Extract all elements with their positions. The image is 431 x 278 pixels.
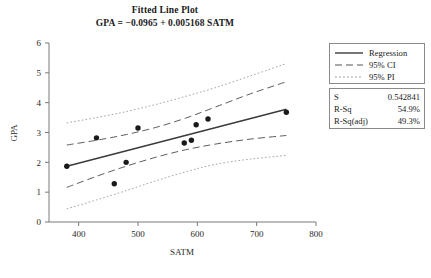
legend-swatch-dotted-icon — [334, 72, 364, 82]
y-tick-label: 2 — [37, 158, 42, 168]
x-tick-label: 600 — [191, 229, 205, 239]
stats-row-s: S 0.542841 — [334, 91, 420, 103]
y-tick-label: 6 — [37, 38, 42, 48]
axis-frame — [49, 43, 316, 222]
x-tick-label: 800 — [309, 229, 323, 239]
x-tick-label: 700 — [250, 229, 264, 239]
statistics-box: S 0.542841 R-Sq 54.9% R-Sq(adj) 49.3% — [329, 88, 425, 129]
x-axis-title: SATM — [170, 247, 194, 257]
legend-item-ci: 95% CI — [334, 59, 420, 71]
stats-key-rsqadj: R-Sq(adj) — [334, 116, 368, 126]
data-point — [205, 116, 210, 121]
legend-label-pi: 95% PI — [369, 72, 395, 82]
data-point — [182, 140, 187, 145]
legend-item-pi: 95% PI — [334, 71, 420, 83]
stats-value-rsq: 54.9% — [398, 104, 420, 114]
x-axis-tick-labels: 400500600700800 — [72, 229, 323, 239]
prediction-interval-upper-line — [67, 64, 287, 123]
y-axis-title: GPA — [9, 124, 19, 142]
plot-canvas: 0123456 400500600700800 SATM GPA — [0, 0, 431, 278]
y-tick-label: 4 — [37, 98, 42, 108]
stats-key-s: S — [334, 92, 339, 102]
data-point — [94, 135, 99, 140]
stats-row-rsq: R-Sq 54.9% — [334, 103, 420, 115]
data-point — [284, 110, 289, 115]
x-axis-ticks — [79, 222, 316, 226]
stats-value-s: 0.542841 — [388, 92, 420, 102]
data-point — [112, 181, 117, 186]
legend-box: Regression 95% CI 95% PI — [329, 43, 425, 84]
data-point — [135, 125, 140, 130]
stats-key-rsq: R-Sq — [334, 104, 352, 114]
y-tick-label: 3 — [37, 128, 42, 138]
y-tick-label: 1 — [37, 187, 42, 197]
legend-label-regression: Regression — [369, 48, 407, 58]
legend-item-regression: Regression — [334, 47, 420, 59]
stats-value-rsqadj: 49.3% — [398, 116, 420, 126]
y-tick-label: 5 — [37, 68, 42, 78]
legend-label-ci: 95% CI — [369, 60, 396, 70]
stats-row-rsqadj: R-Sq(adj) 49.3% — [334, 115, 420, 127]
x-tick-label: 500 — [131, 229, 145, 239]
fitted-line-plot-figure: Fitted Line Plot GPA = −0.0965 + 0.00516… — [0, 0, 431, 278]
data-point — [64, 164, 69, 169]
regression-line — [67, 109, 287, 166]
data-point — [123, 160, 128, 165]
legend-swatch-solid-icon — [334, 48, 364, 58]
confidence-interval-lower-line — [67, 135, 287, 187]
data-point — [193, 122, 198, 127]
legend-swatch-dashed-icon — [334, 60, 364, 70]
y-tick-label: 0 — [37, 217, 42, 227]
y-axis-ticks — [45, 43, 49, 222]
prediction-interval-lower-line — [67, 155, 287, 208]
data-point — [189, 138, 194, 143]
y-axis-tick-labels: 0123456 — [37, 38, 42, 227]
x-tick-label: 400 — [72, 229, 86, 239]
confidence-interval-upper-line — [67, 82, 287, 145]
